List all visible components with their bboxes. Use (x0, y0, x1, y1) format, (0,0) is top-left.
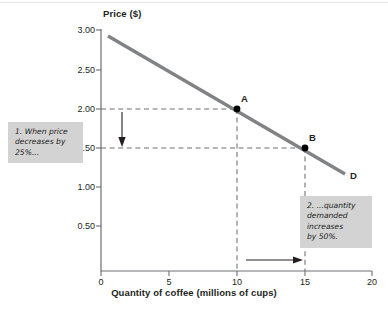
annotation-quantity-increase: 2. ...quantity demanded increases by 50%… (300, 196, 372, 248)
y-tick-label-3-00: 3.00 (61, 25, 95, 35)
demand-curve-figure: Price ($) Quantity of coffee (millions o… (0, 0, 388, 310)
data-point-a (234, 106, 241, 113)
y-axis-title: Price ($) (103, 8, 141, 19)
y-tick-label-0-50: 0.50 (61, 221, 95, 231)
quantity-right-arrow (246, 256, 303, 263)
annotation-quantity-increase-line-4: by 50%. (307, 232, 366, 242)
annotation-price-decrease-line-1: 1. When price (15, 127, 77, 137)
point-a-label: A (241, 93, 248, 104)
y-tick-label-2-00: 2.00 (61, 104, 95, 114)
annotation-quantity-increase-line-1: 2. ...quantity (307, 201, 366, 211)
annotation-price-decrease: 1. When price decreases by 25%... (8, 122, 83, 163)
x-tick-label-5: 5 (152, 277, 186, 287)
x-axis-title: Quantity of coffee (millions of cups) (0, 287, 388, 298)
x-tick-label-10: 10 (220, 277, 254, 287)
y-tick-label-1-00: 1.00 (61, 182, 95, 192)
data-point-b (302, 145, 309, 152)
curve-d-label: D (350, 170, 357, 181)
x-tick-label-15: 15 (288, 277, 322, 287)
point-b-label: B (309, 132, 316, 143)
annotation-price-decrease-line-2: decreases by (15, 137, 77, 147)
annotation-quantity-increase-line-2: demanded (307, 211, 366, 221)
annotation-quantity-increase-line-3: increases (307, 222, 366, 232)
y-tick-label-2-50: 2.50 (61, 65, 95, 75)
x-tick-label-20: 20 (355, 277, 388, 287)
y-axis-ticks (96, 30, 101, 226)
demand-curve-d (108, 36, 345, 174)
x-axis-ticks (101, 271, 372, 276)
x-tick-label-0: 0 (84, 277, 118, 287)
price-down-arrow (118, 112, 125, 147)
annotation-price-decrease-line-3: 25%... (15, 148, 77, 158)
